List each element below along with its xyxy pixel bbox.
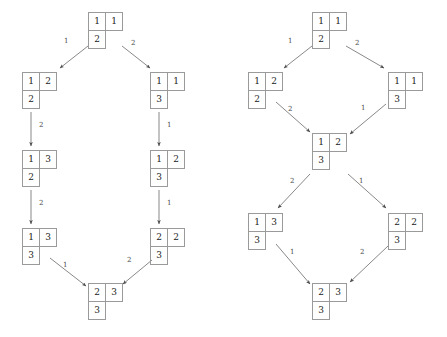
- tableau-cell: 3: [329, 283, 347, 302]
- tableau-row: 3: [22, 246, 57, 265]
- tableau-row: 23: [88, 283, 123, 302]
- tableau-cell: 2: [405, 213, 423, 232]
- tableau-cell: 2: [88, 30, 106, 49]
- edge-L4-L6-label: 1: [167, 200, 171, 207]
- tableau-row: 13: [248, 213, 283, 232]
- tableau-R0: 112: [312, 12, 347, 49]
- tableau-row: 3: [248, 231, 283, 250]
- tableau-row: 12: [150, 150, 185, 169]
- tableau-R3: 123: [312, 133, 347, 170]
- tableau-cell: 1: [388, 72, 406, 91]
- tableau-cell: 3: [22, 246, 40, 265]
- edge-R3-R5: [348, 174, 386, 208]
- tableau-cell: 1: [312, 133, 330, 152]
- tableau-row: 2: [88, 30, 123, 49]
- tableau-row: 22: [388, 213, 423, 232]
- tableau-row: 2: [22, 90, 57, 109]
- tableau-L1: 122: [22, 72, 57, 109]
- tableau-row: 3: [388, 231, 423, 250]
- tableau-row: 3: [150, 246, 185, 265]
- tableau-cell: 2: [167, 150, 185, 169]
- tableau-cell: 3: [150, 246, 168, 265]
- tableau-cell: 3: [105, 283, 123, 302]
- tableau-cell: 2: [312, 283, 330, 302]
- edge-R0-R1: [284, 46, 312, 68]
- tableau-L5: 133: [22, 228, 57, 265]
- tableau-R5: 223: [388, 213, 423, 250]
- edge-R4-R6-label: 1: [290, 249, 294, 256]
- tableau-cell: 2: [248, 90, 266, 109]
- edge-L3-L5-label: 2: [39, 200, 43, 207]
- tableau-row: 13: [22, 150, 57, 169]
- tableau-row: 3: [150, 168, 185, 187]
- edge-R2-R3-label: 1: [361, 105, 365, 112]
- tableau-row: 3: [150, 90, 185, 109]
- edge-R3-R5-label: 1: [359, 178, 363, 185]
- tableau-row: 12: [312, 133, 347, 152]
- tableau-cell: 2: [39, 72, 57, 91]
- tableau-L0: 112: [88, 12, 123, 49]
- tableau-row: 11: [150, 72, 185, 91]
- tableau-cell: 2: [329, 133, 347, 152]
- edge-R5-R6-label: 2: [360, 249, 364, 256]
- tableau-cell: 1: [22, 228, 40, 247]
- tableau-cell: 1: [248, 72, 266, 91]
- tableau-cell: 3: [312, 151, 330, 170]
- tableau-cell: 3: [39, 228, 57, 247]
- tableau-row: 2: [312, 30, 347, 49]
- tableau-cell: 1: [22, 150, 40, 169]
- tableau-L4: 123: [150, 150, 185, 187]
- tableau-cell: 3: [248, 231, 266, 250]
- edge-R1-R3-label: 2: [288, 106, 292, 113]
- tableau-cell: 3: [150, 168, 168, 187]
- tableau-L3: 132: [22, 150, 57, 187]
- tableau-row: 3: [312, 151, 347, 170]
- edge-L0-L2-label: 2: [131, 40, 135, 47]
- tableau-cell: 2: [150, 228, 168, 247]
- edge-L1-L3-label: 2: [39, 122, 43, 129]
- arrow-layer: [0, 0, 447, 337]
- edge-R0-R2-label: 2: [355, 40, 359, 47]
- edge-R0-R1-label: 1: [288, 38, 292, 45]
- tableau-L7: 233: [88, 283, 123, 320]
- tableau-cell: 3: [388, 90, 406, 109]
- edge-L0-L1-label: 1: [64, 38, 68, 45]
- tableau-cell: 1: [248, 213, 266, 232]
- tableau-cell: 3: [388, 231, 406, 250]
- edge-L6-L7-label: 2: [127, 257, 131, 264]
- tableau-cell: 2: [22, 90, 40, 109]
- tableau-row: 2: [248, 90, 283, 109]
- tableau-cell: 3: [150, 90, 168, 109]
- tableau-row: 22: [150, 228, 185, 247]
- tableau-cell: 2: [388, 213, 406, 232]
- tableau-row: 13: [22, 228, 57, 247]
- tableau-row: 3: [88, 301, 123, 320]
- tableau-row: 23: [312, 283, 347, 302]
- tableau-cell: 1: [329, 12, 347, 31]
- tableau-R1: 122: [248, 72, 283, 109]
- edge-R2-R3: [350, 104, 386, 134]
- tableau-cell: 1: [312, 12, 330, 31]
- tableau-cell: 2: [167, 228, 185, 247]
- edge-L0-L1: [60, 46, 88, 68]
- tableau-cell: 1: [167, 72, 185, 91]
- tableau-cell: 1: [405, 72, 423, 91]
- tableau-cell: 2: [88, 283, 106, 302]
- tableau-cell: 3: [39, 150, 57, 169]
- edge-R5-R6: [350, 246, 388, 282]
- tableau-cell: 2: [312, 30, 330, 49]
- tableau-row: 11: [88, 12, 123, 31]
- tableau-R2: 113: [388, 72, 423, 109]
- tableau-row: 3: [312, 301, 347, 320]
- tableau-row: 11: [312, 12, 347, 31]
- tableau-cell: 3: [312, 301, 330, 320]
- tableau-row: 12: [22, 72, 57, 91]
- tableau-cell: 3: [265, 213, 283, 232]
- tableau-cell: 2: [265, 72, 283, 91]
- edge-L5-L7-label: 1: [63, 262, 67, 269]
- tableau-row: 2: [22, 168, 57, 187]
- edge-R0-R2: [346, 46, 384, 68]
- tableau-row: 3: [388, 90, 423, 109]
- edge-L2-L4-label: 1: [167, 122, 171, 129]
- tableau-cell: 2: [22, 168, 40, 187]
